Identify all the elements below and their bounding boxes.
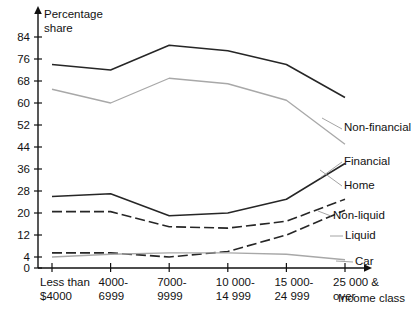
series-label-non-liquid: Non-liquid [333,209,385,221]
x-tick-label: Less than [40,276,90,288]
x-tick-label: 7000- [157,276,187,288]
x-tick-label: 24 999 [274,290,309,302]
y-tick-label: 28 [17,185,30,197]
y-tick-label: 36 [17,163,30,175]
y-tick-label: 84 [17,31,30,43]
leader-financial [320,162,342,178]
series-label-group: Non-financialFinancialHomeNon-liquidLiqu… [333,121,411,267]
series-label-non-financial: Non-financial [344,121,411,133]
y-tick-label: 52 [17,119,30,131]
x-tick-label: 15 000- [274,276,313,288]
x-tick-label: 25 000 & [333,276,379,288]
y-axis-title-line2: share [44,22,73,34]
x-tick-label: 10 000- [216,276,255,288]
leader-non-liquid [318,211,331,216]
y-axis [34,6,42,268]
y-tick-label: 68 [17,75,30,87]
series-line-home [52,78,345,144]
x-tick-label: 14 999 [216,290,251,302]
x-tick-label: $4000 [40,290,72,302]
y-tick-label: 44 [17,141,30,153]
line-chart: 0412202836445260687684 Less than$4000400… [0,0,420,311]
x-tick-label: 9999 [157,290,183,302]
series-line-liquid [52,210,345,257]
x-tick-label: 4000- [99,276,129,288]
y-tick-label: 60 [17,97,30,109]
x-tick-label: 6999 [99,290,125,302]
series-group [52,45,345,260]
series-label-car: Car [355,255,374,267]
y-axis-title-line1: Percentage [44,8,103,20]
series-line-non-financial [52,45,345,97]
series-label-financial: Financial [344,155,390,167]
x-axis [38,264,372,272]
y-axis-arrowhead [34,6,42,14]
y-tick-label: 20 [17,207,30,219]
x-axis-caption: Income class [338,292,405,304]
series-label-liquid: Liquid [345,229,376,241]
y-tick-label-group: 0412202836445260687684 [17,31,30,274]
y-tick-label: 12 [17,229,30,241]
x-tick-label-group: Less than$40004000-69997000-999910 000-1… [40,276,379,302]
y-tick-label: 76 [17,53,30,65]
series-label-home: Home [344,179,375,191]
y-tick-label: 0 [24,262,30,274]
leader-non-financial [322,118,342,129]
leader-car [336,261,353,262]
chart-container: 0412202836445260687684 Less than$4000400… [0,0,420,311]
series-line-financial [52,164,345,216]
y-tick-label: 4 [24,251,31,263]
